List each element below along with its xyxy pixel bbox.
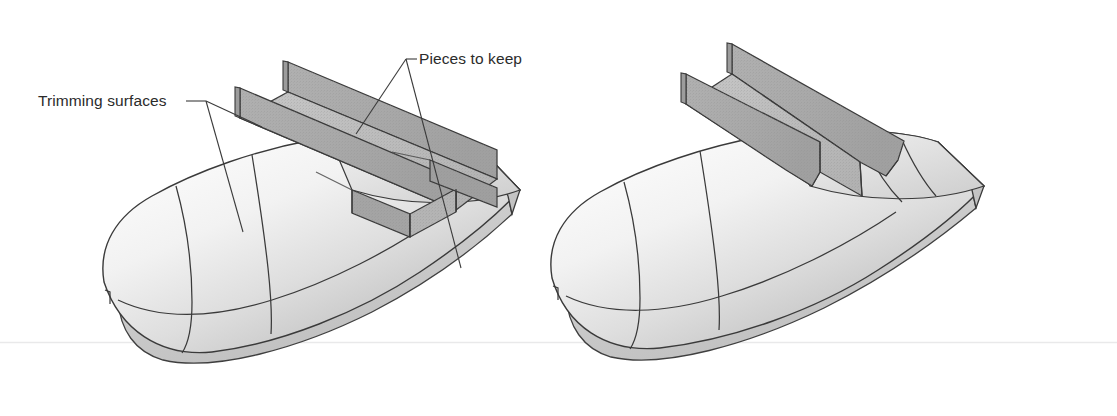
near-wall-leading-edge-before <box>235 87 240 118</box>
figure-canvas: Trimming surfaces Pieces to keep <box>0 0 1117 416</box>
far-wall-leading-edge-after <box>727 43 732 74</box>
panel-after-trimming <box>551 43 984 360</box>
diagram-svg: Trimming surfaces Pieces to keep <box>0 0 1117 416</box>
far-wall-leading-edge-before <box>283 61 288 92</box>
near-wall-leading-edge-after <box>681 73 686 104</box>
panel-before-trimming: Trimming surfaces Pieces to keep <box>38 50 522 363</box>
label-trimming-surfaces: Trimming surfaces <box>38 92 167 109</box>
label-pieces-to-keep: Pieces to keep <box>419 50 522 67</box>
